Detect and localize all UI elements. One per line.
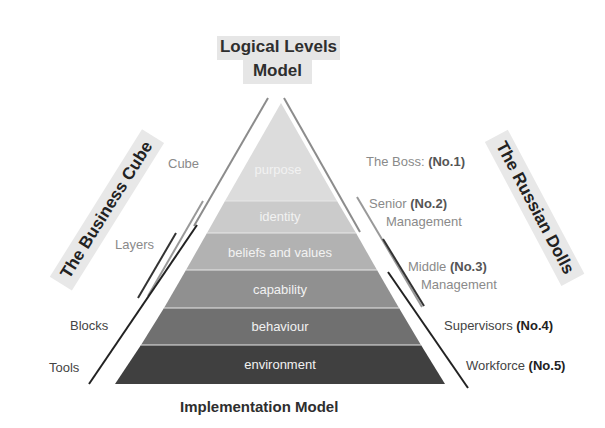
layer-label-beliefs: beliefs and values xyxy=(228,245,332,261)
boss-num: (No.1) xyxy=(428,154,465,169)
layer-purpose xyxy=(225,103,337,201)
label-blocks: Blocks xyxy=(70,318,108,334)
layer-label-identity: identity xyxy=(259,209,300,225)
label-cube: Cube xyxy=(168,156,199,172)
label-middle: Middle (No.3) xyxy=(408,259,487,275)
label-middle-management: Management xyxy=(421,277,497,293)
senior-text: Senior xyxy=(369,196,410,211)
top-title-line1-box: Logical Levels xyxy=(217,36,340,60)
label-senior-management: Management xyxy=(386,214,462,230)
top-title-line2-box: Model xyxy=(243,60,312,84)
boss-text: The Boss: xyxy=(366,154,428,169)
label-layers: Layers xyxy=(115,237,154,253)
label-supervisors: Supervisors (No.4) xyxy=(444,318,553,334)
workforce-text: Workforce xyxy=(466,358,529,373)
label-workforce: Workforce (No.5) xyxy=(466,358,565,374)
workforce-num: (No.5) xyxy=(529,358,566,373)
middle-num: (No.3) xyxy=(450,259,487,274)
senior-num: (No.2) xyxy=(410,196,447,211)
label-senior: Senior (No.2) xyxy=(369,196,447,212)
supervisors-text: Supervisors xyxy=(444,318,516,333)
label-tools: Tools xyxy=(49,360,79,376)
top-title-line2: Model xyxy=(253,61,302,80)
middle-text: Middle xyxy=(408,259,450,274)
top-title-line1: Logical Levels xyxy=(220,37,337,56)
layer-label-purpose: purpose xyxy=(255,162,302,178)
layer-label-environment: environment xyxy=(244,357,316,373)
implementation-model-title: Implementation Model xyxy=(180,398,338,415)
layer-label-behaviour: behaviour xyxy=(251,319,308,335)
supervisors-num: (No.4) xyxy=(516,318,553,333)
label-boss: The Boss: (No.1) xyxy=(366,154,465,170)
layer-label-capability: capability xyxy=(253,282,307,298)
